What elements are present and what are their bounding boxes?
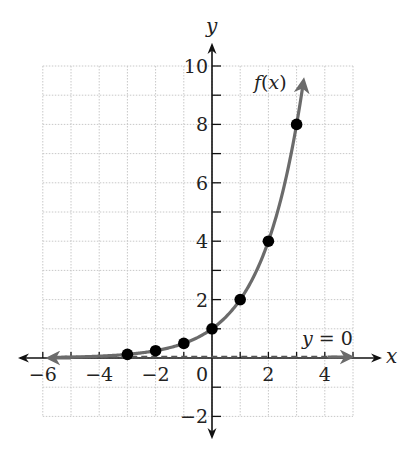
y-tick-label: 8 bbox=[196, 113, 208, 135]
x-tick-label: 4 bbox=[319, 363, 331, 385]
y-tick-label: 6 bbox=[196, 172, 208, 194]
data-point bbox=[263, 235, 275, 247]
x-tick-label: 0 bbox=[196, 363, 208, 385]
axis-labels: y x f(x) y = 0 bbox=[205, 14, 397, 368]
exponential-function-chart: y x f(x) y = 0 −6−4−2024108642−2 bbox=[0, 0, 414, 459]
data-point bbox=[122, 349, 134, 361]
data-point bbox=[178, 338, 190, 350]
y-tick-label: 2 bbox=[196, 289, 208, 311]
curve-path bbox=[54, 82, 303, 357]
x-tick-label: −2 bbox=[142, 363, 170, 385]
x-tick-label: −6 bbox=[29, 363, 57, 385]
y-tick-label: 10 bbox=[184, 55, 208, 77]
x-tick-label: −4 bbox=[85, 363, 113, 385]
data-point bbox=[150, 345, 162, 357]
x-axis-label: x bbox=[386, 344, 397, 368]
data-point bbox=[291, 119, 303, 131]
y-tick-label: 4 bbox=[196, 230, 208, 252]
x-tick-label: 2 bbox=[262, 363, 274, 385]
data-point bbox=[206, 323, 218, 335]
y-axis-label: y bbox=[205, 14, 218, 38]
asymptote-label: y = 0 bbox=[301, 327, 353, 349]
data-point bbox=[234, 294, 246, 306]
curve-label: f(x) bbox=[252, 71, 287, 93]
y-tick-label: −2 bbox=[180, 405, 208, 427]
